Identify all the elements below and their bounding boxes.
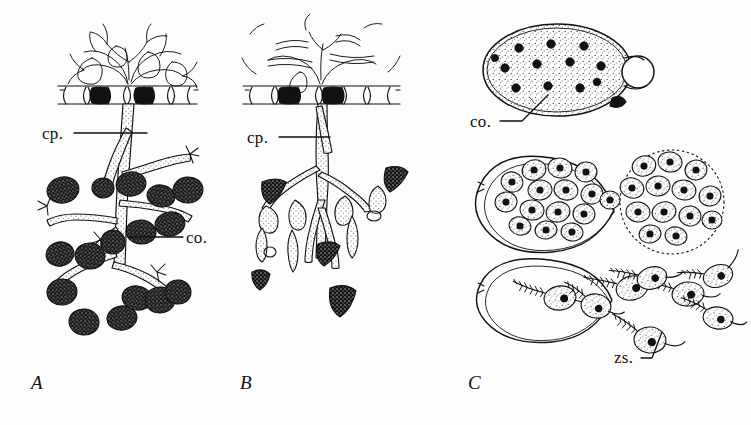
panel-a-mycelium [68,24,197,88]
panel-letter-a: A [31,372,43,394]
panel-c-drawing [475,24,749,357]
label-cp-panel-b: cp. [247,128,268,148]
illustration-svg [0,0,751,425]
panel-letter-b: B [240,372,252,394]
panel-a-epidermis [58,86,198,104]
label-co-panel-a: co. [186,228,207,248]
label-cp-panel-a: cp. [42,124,63,144]
label-zs-panel-c: zs. [614,348,633,368]
panel-letter-c: C [468,372,481,394]
panel-b-conidia [252,167,408,317]
panel-b-drawing [242,14,408,317]
panel-b-epidermis [243,86,400,104]
figure-canvas: cp. co. cp. co. zs. A B C [0,0,751,425]
panel-b-mycelium [242,14,400,93]
panel-a-drawing [38,24,204,336]
label-co-panel-c: co. [470,112,491,132]
panel-c-stage1-conidium [483,24,654,116]
panel-c-stage2-vesicle [475,150,724,254]
panel-c-stage3-zoospores [476,249,749,356]
